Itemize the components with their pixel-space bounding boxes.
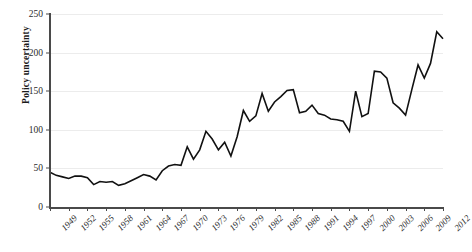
x-tick-label: 2009 — [434, 213, 454, 233]
plot-area: 050100150200250 194919521955195819611964… — [50, 14, 443, 207]
x-tick-label: 1988 — [303, 213, 323, 233]
x-tick-label: 1955 — [97, 213, 117, 233]
x-tick-label: 2003 — [396, 213, 416, 233]
x-tick-label: 1964 — [153, 213, 173, 233]
x-tick-label: 1949 — [59, 213, 79, 233]
x-tick-label: 2006 — [415, 213, 435, 233]
x-tick-mark — [443, 207, 444, 211]
x-tick-label: 1952 — [78, 213, 98, 233]
x-tick-label: 1973 — [209, 213, 229, 233]
x-tick-label: 1961 — [134, 213, 154, 233]
y-axis-label: Policy uncertainty — [21, 0, 31, 135]
y-tick-label: 50 — [34, 163, 44, 173]
y-tick-label: 200 — [29, 48, 43, 58]
x-tick-label: 1958 — [115, 213, 135, 233]
x-axis-line — [49, 207, 443, 209]
x-tick-label: 2000 — [377, 213, 397, 233]
x-tick-label: 1976 — [228, 213, 248, 233]
y-tick-label: 150 — [29, 86, 43, 96]
y-tick-label: 100 — [29, 125, 43, 135]
policy-uncertainty-line — [50, 32, 443, 186]
x-tick-label: 1997 — [359, 213, 379, 233]
y-tick-label: 0 — [38, 202, 43, 212]
data-series-group — [50, 14, 443, 207]
x-tick-label: 2012 — [452, 213, 472, 233]
x-tick-label: 1991 — [321, 213, 341, 233]
x-tick-label: 1994 — [340, 213, 360, 233]
x-tick-label: 1970 — [190, 213, 210, 233]
x-tick-label: 1979 — [246, 213, 266, 233]
x-tick-label: 1982 — [265, 213, 285, 233]
x-tick-label: 1985 — [284, 213, 304, 233]
y-tick-label: 250 — [29, 9, 43, 19]
y-axis-line — [49, 13, 51, 208]
x-tick-label: 1967 — [172, 213, 192, 233]
